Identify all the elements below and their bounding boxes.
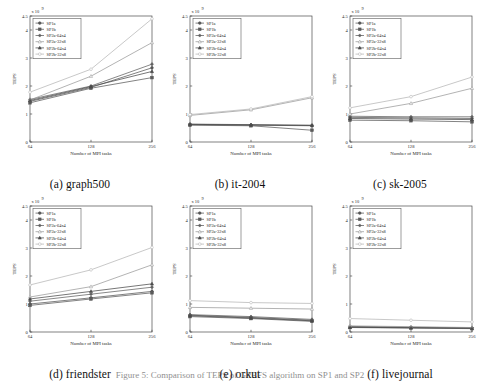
chart-d: 012344.564128256x 109Number of MPI tasks… [0, 190, 160, 362]
series-line [190, 97, 312, 115]
legend-label: SP2a-32x8 [367, 39, 387, 44]
legend-marker [198, 218, 201, 221]
figure-caption: Figure 5: Comparison of TEPS of GPBFS al… [0, 370, 480, 381]
series-line [30, 247, 152, 285]
panel-f: 012344.564128256x 109Number of MPI tasks… [320, 190, 480, 380]
chart-e: 012344.564128256x 109Number of MPI tasks… [160, 190, 320, 362]
series-SP2a-32x8 [188, 96, 313, 117]
data-point [151, 63, 154, 66]
legend-label: SP1b [367, 27, 377, 32]
x-tick-label: 64 [28, 334, 33, 339]
panel-d: 012344.564128256x 109Number of MPI tasks… [0, 190, 160, 380]
figure-row-bottom: 012344.564128256x 109Number of MPI tasks… [0, 190, 480, 380]
panel-d-plot: 012344.564128256x 109Number of MPI tasks… [0, 190, 160, 362]
panel-a-caption: (a) graph500 [0, 178, 160, 190]
legend-marker [198, 243, 201, 246]
data-point [188, 123, 191, 126]
series-SP2b-32x8 [29, 246, 154, 286]
y-axis-exponent: x 10 [192, 199, 200, 204]
x-tick-label: 128 [408, 334, 416, 339]
data-point [311, 95, 314, 98]
y-tick-label: 4.5 [22, 14, 28, 19]
legend-label: SP1b [47, 217, 57, 222]
series-SP2a-32x8 [348, 87, 473, 116]
data-point [89, 75, 92, 78]
y-tick-label: 4 [186, 28, 189, 33]
x-tick-label: 64 [28, 144, 33, 149]
legend-marker [198, 22, 201, 25]
series-SP1b [29, 76, 154, 104]
legend-marker [38, 218, 41, 221]
legend-marker [358, 53, 361, 56]
x-axis-label: Number of MPI tasks [70, 341, 112, 346]
data-point [471, 321, 474, 324]
data-point [90, 298, 93, 301]
x-tick-label: 256 [149, 144, 157, 149]
panel-e-plot: 012344.564128256x 109Number of MPI tasks… [160, 190, 320, 362]
x-axis-label: Number of MPI tasks [230, 151, 272, 156]
legend-label: SP1a [367, 211, 376, 216]
y-axis-exponent: x 10 [32, 199, 40, 204]
legend-label: SP2b-64x4 [47, 236, 67, 241]
legend-marker [358, 28, 361, 31]
panel-b: 012344.564128256x 109Number of MPI tasks… [160, 0, 320, 190]
legend-label: SP2b-32x8 [207, 52, 227, 57]
legend-label: SP2a-64x4 [47, 33, 67, 38]
x-tick-label: 128 [248, 334, 256, 339]
panel-c-plot: 012344.564128256x 109Number of MPI tasks… [320, 0, 480, 172]
series-SP2b-32x8 [189, 95, 314, 116]
data-point [151, 291, 154, 294]
y-tick-label: 2 [186, 274, 189, 279]
y-tick-label: 4.5 [182, 204, 188, 209]
data-point [250, 108, 253, 111]
data-point [189, 299, 192, 302]
data-point [150, 70, 153, 73]
panel-b-plot: 012344.564128256x 109Number of MPI tasks… [160, 0, 320, 172]
y-tick-label: 4.5 [342, 14, 348, 19]
legend-label: SP2a-32x8 [207, 229, 227, 234]
y-tick-label: 4 [346, 28, 349, 33]
legend-marker [38, 28, 41, 31]
y-axis-exponent: x 10 [192, 9, 200, 14]
panel-c: 012344.564128256x 109Number of MPI tasks… [320, 0, 480, 190]
panel-b-caption: (b) it-2004 [160, 178, 320, 190]
data-point [90, 293, 93, 296]
data-point [311, 129, 314, 132]
legend-label: SP2a-64x4 [367, 33, 387, 38]
y-axis-exponent-power: 9 [202, 6, 205, 11]
panel-a: 012344.564128256x 109Number of MPI tasks… [0, 0, 160, 190]
legend-label: SP2a-32x8 [207, 39, 227, 44]
legend-label: SP1a [47, 211, 56, 216]
data-point [250, 301, 253, 304]
data-point [310, 124, 313, 127]
y-axis-exponent: x 10 [352, 9, 360, 14]
legend-label: SP2b-32x8 [367, 242, 387, 247]
y-tick-label: 4.5 [22, 204, 28, 209]
y-tick-label: 2 [346, 84, 349, 89]
x-axis-label: Number of MPI tasks [390, 151, 432, 156]
legend-marker [358, 212, 361, 215]
panel-f-plot: 012344.564128256x 109Number of MPI tasks… [320, 190, 480, 362]
legend-label: SP2a-64x4 [367, 223, 387, 228]
y-axis-exponent-power: 9 [362, 196, 365, 201]
legend-label: SP2b-64x4 [367, 236, 387, 241]
data-point [249, 123, 252, 126]
x-tick-label: 128 [88, 144, 96, 149]
x-tick-label: 128 [408, 144, 416, 149]
legend-label: SP2b-32x8 [47, 242, 67, 247]
series-SP2b-32x8 [349, 317, 474, 323]
x-tick-label: 256 [309, 144, 317, 149]
legend-label: SP1a [367, 21, 376, 26]
chart-c: 012344.564128256x 109Number of MPI tasks… [320, 0, 480, 172]
legend-marker [38, 212, 41, 215]
y-tick-label: 3 [346, 246, 349, 251]
y-tick-label: 3 [26, 246, 29, 251]
series-line [30, 78, 152, 103]
legend-label: SP2a-64x4 [47, 223, 67, 228]
y-tick-label: 3 [26, 56, 29, 61]
x-tick-label: 64 [188, 334, 193, 339]
y-axis-label: TEPS [332, 263, 337, 275]
y-axis-exponent-power: 9 [42, 6, 45, 11]
legend-label: SP1a [47, 21, 56, 26]
legend-label: SP1a [207, 211, 216, 216]
